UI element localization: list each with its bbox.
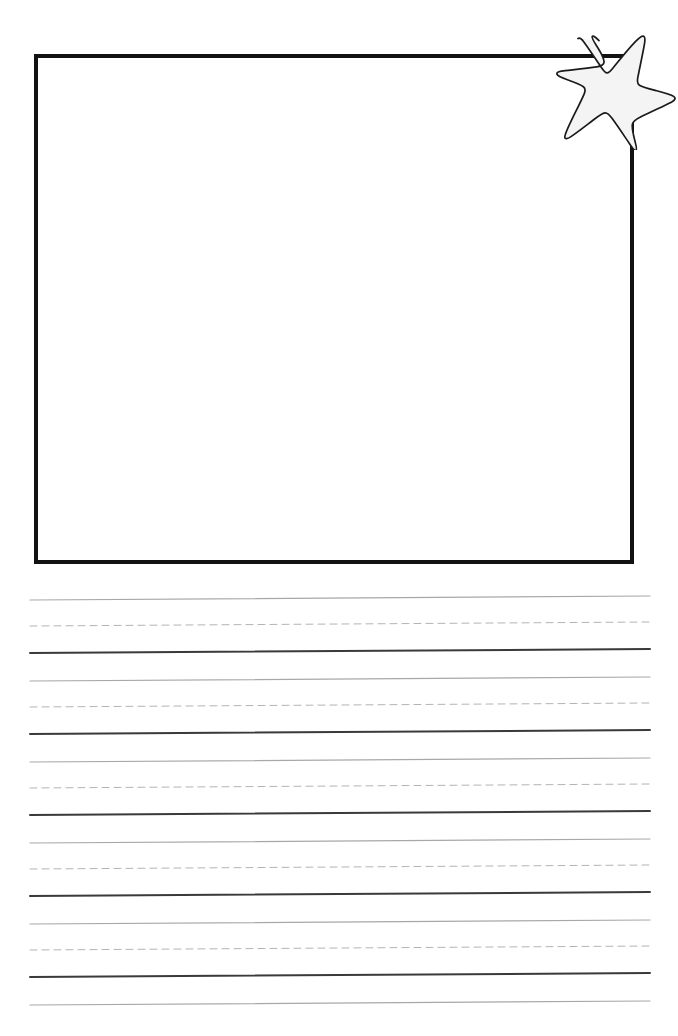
writing-lines-area[interactable]: [0, 566, 678, 1036]
writing-line-midline-dashed-guide: [30, 622, 650, 626]
writing-line-top-guide-line: [30, 1001, 650, 1005]
writing-line-top-guide-line: [30, 920, 650, 924]
writing-line-baseline: [30, 730, 650, 734]
writing-line-top-guide-line: [30, 677, 650, 681]
drawing-box-content: [38, 58, 39, 59]
writing-line-midline-dashed-guide: [30, 784, 650, 788]
drawing-box[interactable]: [34, 54, 634, 564]
writing-line-midline-dashed-guide: [30, 703, 650, 707]
worksheet-page: [0, 0, 678, 1036]
writing-line-baseline: [30, 973, 650, 977]
writing-lines-svg: [0, 566, 678, 1036]
writing-line-baseline: [30, 811, 650, 815]
writing-line-baseline: [30, 649, 650, 653]
writing-line-baseline: [30, 892, 650, 896]
writing-line-top-guide-line: [30, 839, 650, 843]
writing-line-top-guide-line: [30, 758, 650, 762]
writing-line-top-guide-line: [30, 596, 650, 600]
writing-line-midline-dashed-guide: [30, 865, 650, 869]
writing-line-midline-dashed-guide: [30, 946, 650, 950]
